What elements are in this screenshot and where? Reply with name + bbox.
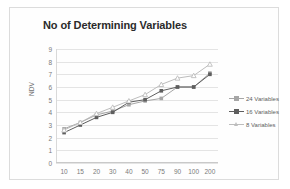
data-point-marker bbox=[143, 92, 148, 96]
x-tick-label: 15 bbox=[77, 168, 84, 175]
data-point-marker bbox=[208, 73, 212, 77]
data-point-marker bbox=[192, 85, 196, 89]
legend-item[interactable]: 24 Variables bbox=[229, 92, 290, 105]
y-tick-label: 2 bbox=[48, 134, 52, 141]
data-point-marker bbox=[127, 99, 132, 103]
plot-area: 0123456789 1015203040507590100200 bbox=[56, 49, 218, 163]
x-tick-label: 200 bbox=[204, 168, 215, 175]
legend-label: 16 Variables bbox=[246, 109, 279, 115]
y-tick-label: 0 bbox=[48, 160, 52, 167]
x-tick-label: 10 bbox=[60, 168, 67, 175]
data-point-marker bbox=[111, 111, 115, 115]
x-tick-label: 90 bbox=[174, 168, 181, 175]
x-tick-label: 30 bbox=[109, 168, 116, 175]
series-line bbox=[64, 74, 210, 132]
legend-label: 8 Variables bbox=[246, 122, 276, 128]
y-tick-label: 1 bbox=[48, 147, 52, 154]
y-tick-label: 4 bbox=[48, 109, 52, 116]
x-tick-label: 50 bbox=[141, 168, 148, 175]
legend-marker-icon bbox=[229, 94, 244, 103]
data-point-marker bbox=[160, 97, 164, 101]
chart-title: No of Determining Variables bbox=[10, 19, 220, 31]
x-tick-label: 40 bbox=[125, 168, 132, 175]
chart-frame: No of Determining Variables NDV 01234567… bbox=[9, 7, 279, 180]
series-lines bbox=[56, 49, 218, 163]
x-tick-label: 75 bbox=[158, 168, 165, 175]
legend-item[interactable]: 8 Variables bbox=[229, 118, 290, 131]
y-tick-label: 9 bbox=[48, 46, 52, 53]
data-point-marker bbox=[175, 76, 180, 80]
data-point-marker bbox=[208, 62, 213, 66]
y-tick-label: 5 bbox=[48, 96, 52, 103]
data-point-marker bbox=[159, 82, 164, 86]
y-tick-label: 3 bbox=[48, 122, 52, 129]
y-tick-label: 7 bbox=[48, 71, 52, 78]
data-point-marker bbox=[143, 98, 147, 102]
y-tick-label: 8 bbox=[48, 58, 52, 65]
data-point-marker bbox=[95, 116, 99, 120]
legend-marker-icon bbox=[229, 107, 244, 116]
data-point-marker bbox=[110, 105, 115, 109]
x-tick-label: 20 bbox=[93, 168, 100, 175]
x-tick-label: 100 bbox=[188, 168, 199, 175]
data-point-marker bbox=[176, 85, 180, 89]
legend-label: 24 Variables bbox=[246, 96, 279, 102]
data-point-marker bbox=[94, 111, 99, 115]
y-tick-label: 6 bbox=[48, 84, 52, 91]
chart-legend: 24 Variables16 Variables8 Variables bbox=[229, 92, 290, 131]
y-axis-title: NDV bbox=[28, 82, 35, 96]
data-point-marker bbox=[160, 89, 164, 93]
legend-item[interactable]: 16 Variables bbox=[229, 105, 290, 118]
legend-marker-icon bbox=[229, 120, 244, 129]
gridline bbox=[56, 163, 218, 164]
